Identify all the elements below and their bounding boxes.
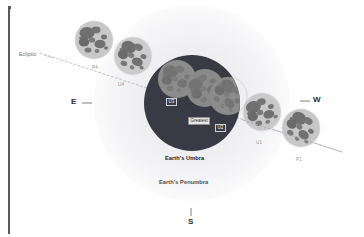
contact-label-p1: P1 — [296, 158, 302, 163]
moon-u4 — [114, 37, 152, 75]
contact-label-u4: U4 — [118, 83, 124, 88]
direction-east-label: E — [71, 98, 76, 106]
contact-label-u2: U2 — [215, 124, 226, 132]
contact-label-greatest: Greatest — [188, 117, 210, 125]
direction-west-label: W — [313, 96, 321, 104]
ecliptic-label: Ecliptic — [19, 52, 36, 57]
direction-south-label: S — [188, 218, 193, 226]
contact-label-p4: P4 — [92, 66, 98, 71]
eclipse-diagram: Ecliptic E W S Earth's Umbra Earth's Pen… — [0, 0, 364, 237]
contact-label-u3: U3 — [166, 98, 177, 106]
eclipse-canvas — [0, 0, 364, 237]
moon-u1 — [243, 93, 281, 131]
umbra-label: Earth's Umbra — [165, 156, 204, 162]
contact-label-u1: U1 — [256, 141, 262, 146]
penumbra-label: Earth's Penumbra — [159, 180, 208, 186]
moon-p4 — [75, 21, 113, 59]
